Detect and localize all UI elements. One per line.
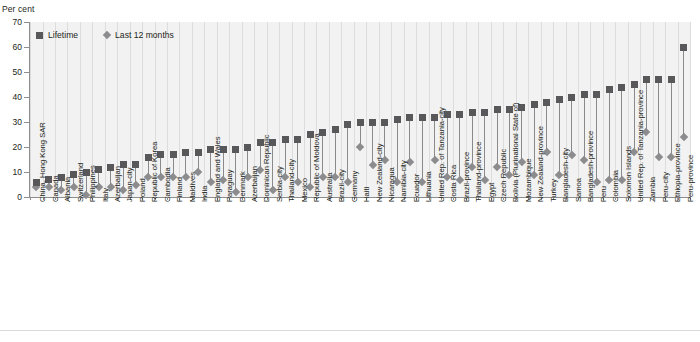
x-axis-label: Switzerland <box>77 163 85 202</box>
footer-divider <box>0 330 700 331</box>
x-axis-label: Zambia <box>649 177 657 202</box>
x-axis-label: Azerbaijan <box>251 166 259 202</box>
x-axis-label: Japan-city <box>126 167 134 202</box>
data-point-lifetime <box>419 114 426 121</box>
data-point-lifetime <box>680 44 687 51</box>
gridline <box>142 22 143 197</box>
x-axis-label: Philippines <box>89 165 97 202</box>
connector-stem <box>447 115 448 178</box>
data-point-lifetime <box>481 109 488 116</box>
x-axis-label: Costa Rica <box>450 165 458 202</box>
x-axis-label: Denmark <box>239 171 247 202</box>
x-axis-label: Paraguay <box>226 169 234 202</box>
x-axis-label: Poland <box>139 178 147 202</box>
y-tick <box>24 47 29 48</box>
connector-stem <box>621 87 622 180</box>
x-axis-label: Australia <box>326 172 334 202</box>
x-axis-label: Azerbaijan <box>114 166 122 202</box>
x-axis-label: Turkey <box>550 179 558 202</box>
gridline <box>329 22 330 197</box>
connector-stem <box>347 125 348 183</box>
data-point-lifetime <box>543 99 550 106</box>
connector-stem <box>683 47 684 137</box>
connector-stem <box>534 105 535 175</box>
y-tick <box>24 72 29 73</box>
data-point-lifetime <box>456 111 463 118</box>
connector-stem <box>272 142 273 190</box>
legend-item-lifetime: Lifetime <box>36 30 78 40</box>
gridline <box>603 22 604 197</box>
gridline <box>304 22 305 197</box>
connector-stem <box>409 117 410 162</box>
x-axis-label: Peru-province <box>687 155 695 202</box>
data-point-lifetime <box>494 106 501 113</box>
data-point-lifetime <box>381 119 388 126</box>
connector-stem <box>297 140 298 183</box>
gridline <box>653 22 654 197</box>
x-axis-label: Ecuador <box>413 174 421 202</box>
data-point-lifetime <box>232 146 239 153</box>
connector-stem <box>484 112 485 180</box>
x-axis-label: Bangladesh-province <box>587 131 595 202</box>
data-point-lifetime <box>294 136 301 143</box>
x-axis-label: Germany <box>351 171 359 202</box>
data-point-lifetime <box>282 136 289 143</box>
data-point-lifetime <box>581 91 588 98</box>
x-axis-label: Thailand-province <box>475 142 483 202</box>
connector-stem <box>322 132 323 177</box>
y-tick-label: 10 <box>2 168 22 176</box>
gridline <box>491 22 492 197</box>
connector-stem <box>584 95 585 160</box>
gridline <box>578 22 579 197</box>
legend-label-lifetime: Lifetime <box>48 30 78 40</box>
data-point-lifetime <box>195 149 202 156</box>
x-axis-label: Peru-city <box>662 172 670 202</box>
data-point-lifetime <box>394 116 401 123</box>
x-axis-label: Mozambique <box>525 159 533 202</box>
connector-stem <box>609 90 610 180</box>
data-point-lifetime <box>531 101 538 108</box>
square-marker-icon <box>36 32 43 39</box>
connector-stem <box>521 107 522 162</box>
data-point-lifetime <box>655 76 662 83</box>
data-point-lifetime <box>606 86 613 93</box>
connector-stem <box>310 135 311 188</box>
data-point-lifetime <box>357 119 364 126</box>
gridline <box>67 22 68 197</box>
legend: Lifetime Last 12 months <box>36 30 174 40</box>
y-tick <box>24 122 29 123</box>
x-axis-label: Samoa <box>575 178 583 202</box>
data-point-lifetime <box>593 91 600 98</box>
gridline <box>192 22 193 197</box>
connector-stem <box>497 110 498 168</box>
data-point-lifetime <box>469 109 476 116</box>
x-axis-label: United Rep. of Tanzania-city <box>438 107 446 202</box>
legend-label-last-12-months: Last 12 months <box>115 30 174 40</box>
connector-stem <box>422 117 423 182</box>
data-point-lifetime <box>568 94 575 101</box>
connector-stem <box>596 95 597 183</box>
gridline <box>553 22 554 197</box>
gridline <box>366 22 367 197</box>
connector-stem <box>671 80 672 158</box>
y-tick <box>24 22 29 23</box>
x-axis-label: Namibia-city <box>400 160 408 202</box>
x-axis-label: Italy <box>102 188 110 202</box>
y-tick-label: 70 <box>2 18 22 26</box>
connector-stem <box>459 115 460 180</box>
x-axis-label: Finland <box>176 177 184 202</box>
x-axis-label: England and Wales <box>214 136 222 202</box>
y-tick-label: 40 <box>2 93 22 101</box>
connector-stem <box>658 80 659 158</box>
y-tick-label: 20 <box>2 143 22 151</box>
x-axis-label: Thailand-city <box>288 159 296 202</box>
connector-stem <box>235 150 236 193</box>
connector-stem <box>559 100 560 175</box>
gridline <box>204 22 205 197</box>
x-axis-label: China, Hong Kong SAR <box>39 122 47 202</box>
y-tick-label: 60 <box>2 43 22 51</box>
data-point-lifetime <box>344 121 351 128</box>
x-axis-label: Lithuania <box>425 171 433 202</box>
connector-stem <box>509 110 510 175</box>
y-tick-label: 30 <box>2 118 22 126</box>
